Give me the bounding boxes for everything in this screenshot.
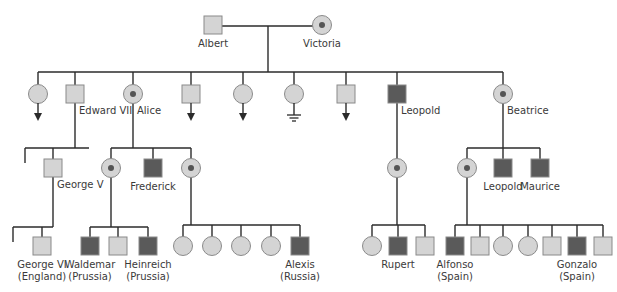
person-beatrice-c1	[458, 159, 477, 178]
person-maurice	[531, 159, 549, 177]
carrier-dot-icon	[188, 165, 194, 171]
person-label: Waldemar	[65, 259, 117, 270]
arrow-down-icon	[342, 113, 350, 121]
person-label: Rupert	[381, 259, 414, 270]
affected-male-square	[291, 237, 309, 255]
person-label: George VI	[17, 259, 66, 270]
person-george6	[33, 237, 51, 255]
person-prussia-2	[109, 237, 127, 255]
person-rupert	[389, 237, 407, 255]
arrow-down-icon	[187, 113, 195, 121]
person-label: Heinreich	[124, 259, 171, 270]
person-g2-1	[29, 85, 48, 122]
affected-male-square	[446, 237, 464, 255]
person-label: Alexis	[285, 259, 315, 270]
female-circle	[234, 85, 253, 104]
affected-male-square	[81, 237, 99, 255]
female-circle	[232, 237, 251, 256]
carrier-dot-icon	[130, 91, 136, 97]
male-square	[543, 237, 561, 255]
person-g2-4	[182, 85, 200, 121]
pedigree-symbols	[29, 16, 613, 256]
carrier-dot-icon	[394, 165, 400, 171]
person-label: Frederick	[130, 181, 176, 192]
person-alfonso	[446, 237, 464, 255]
person-leopold-c1	[388, 159, 407, 178]
affected-male-square	[531, 159, 549, 177]
male-square	[471, 237, 489, 255]
person-rupert-bro	[416, 237, 434, 255]
person-alexis	[291, 237, 309, 255]
person-rupert-sis	[363, 237, 382, 256]
person-label: Leopold	[483, 181, 522, 192]
person-g2-6	[285, 85, 304, 122]
person-label: Alice	[137, 105, 161, 116]
male-square	[594, 237, 612, 255]
arrow-down-icon	[239, 113, 247, 121]
person-russia-1	[174, 237, 193, 256]
female-circle	[285, 85, 304, 104]
person-spain-5	[543, 237, 561, 255]
person-spain-4	[519, 237, 538, 256]
female-circle	[29, 85, 48, 104]
affected-male-square	[388, 85, 406, 103]
affected-male-square	[139, 237, 157, 255]
person-heinreich	[139, 237, 157, 255]
person-albert	[204, 16, 222, 34]
person-russia-3	[232, 237, 251, 256]
male-square	[66, 85, 84, 103]
person-edward7	[66, 85, 84, 103]
person-g2-5	[234, 85, 253, 122]
person-label: Alfonso	[437, 259, 474, 270]
person-label: (Prussia)	[68, 271, 112, 282]
male-square	[182, 85, 200, 103]
person-label: Beatrice	[507, 105, 549, 116]
person-label: Gonzalo	[557, 259, 597, 270]
male-square	[33, 237, 51, 255]
person-label: Maurice	[520, 181, 560, 192]
person-label: Albert	[198, 38, 228, 49]
pedigree-lines	[13, 26, 603, 242]
person-leopold1	[388, 85, 406, 103]
male-square	[337, 85, 355, 103]
female-circle	[363, 237, 382, 256]
person-beatrice	[494, 85, 513, 104]
affected-male-square	[144, 159, 162, 177]
person-label: (Spain)	[559, 271, 595, 282]
carrier-dot-icon	[108, 165, 114, 171]
affected-male-square	[568, 237, 586, 255]
carrier-dot-icon	[500, 91, 506, 97]
person-spain-3	[494, 237, 513, 256]
person-spain-7	[594, 237, 612, 255]
person-label: George V	[57, 179, 104, 190]
female-circle	[494, 237, 513, 256]
person-alice-c3	[182, 159, 201, 178]
person-victoria	[313, 16, 332, 35]
male-square	[44, 159, 62, 177]
arrow-down-icon	[34, 113, 42, 121]
person-spain-2	[471, 237, 489, 255]
person-frederick	[144, 159, 162, 177]
female-circle	[203, 237, 222, 256]
pedigree-diagram: AlbertVictoriaEdward VIIAliceLeopoldBeat…	[0, 0, 617, 292]
person-label: (Prussia)	[126, 271, 170, 282]
female-circle	[174, 237, 193, 256]
affected-male-square	[494, 159, 512, 177]
person-alice	[124, 85, 143, 104]
person-label: (Russia)	[280, 271, 320, 282]
person-russia-4	[262, 237, 281, 256]
female-circle	[519, 237, 538, 256]
male-square	[109, 237, 127, 255]
male-square	[204, 16, 222, 34]
person-label: Edward VII	[79, 105, 132, 116]
person-waldemar	[81, 237, 99, 255]
person-alice-c1	[102, 159, 121, 178]
person-label: Victoria	[303, 38, 341, 49]
female-circle	[262, 237, 281, 256]
person-george5	[44, 159, 62, 177]
affected-male-square	[389, 237, 407, 255]
person-russia-2	[203, 237, 222, 256]
person-label: (Spain)	[437, 271, 473, 282]
person-gonzalo	[568, 237, 586, 255]
person-label: Leopold	[401, 105, 440, 116]
